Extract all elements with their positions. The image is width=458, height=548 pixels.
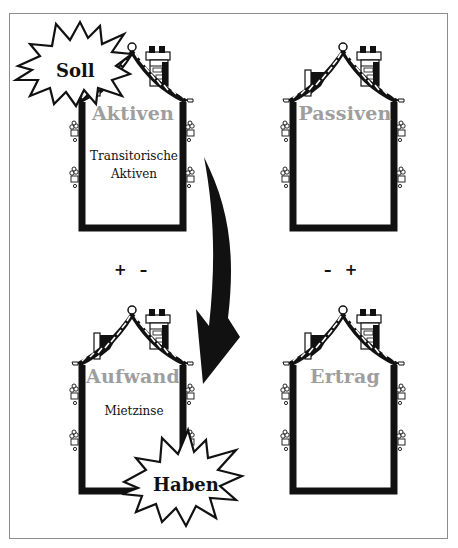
diagram-graphics <box>0 0 458 548</box>
account-entry: Aktiven <box>84 165 184 183</box>
house-body-aktiven: Transitorische Aktiven <box>84 147 184 183</box>
soll-label: Soll <box>56 60 95 81</box>
signs-right: – + <box>324 261 357 279</box>
house-title-passiven: Passiven <box>290 102 400 124</box>
house-ertrag-shape <box>281 306 405 491</box>
haben-label: Haben <box>153 474 219 495</box>
house-passiven-shape <box>281 43 405 228</box>
house-body-aufwand: Mietzinse <box>84 402 184 420</box>
signs-left: + – <box>114 261 147 279</box>
house-title-ertrag: Ertrag <box>292 365 398 387</box>
account-entry: Transitorische <box>84 147 184 165</box>
house-title-aktiven: Aktiven <box>83 102 183 124</box>
account-entry: Mietzinse <box>84 402 184 420</box>
arrow-down-icon <box>196 157 240 384</box>
house-title-aufwand: Aufwand <box>80 365 186 387</box>
